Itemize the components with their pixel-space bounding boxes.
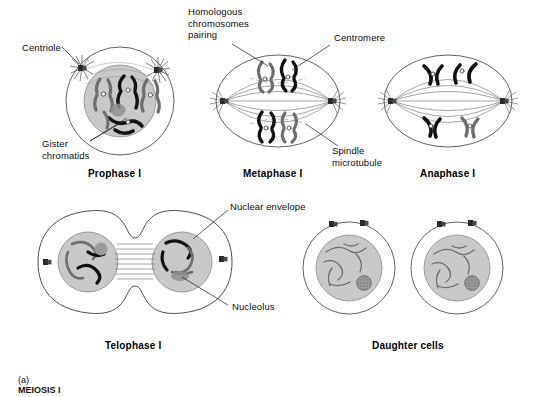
anaphase-cell [378, 55, 518, 147]
nucleolus [465, 276, 480, 291]
label-centromere: Centromere [334, 32, 385, 44]
stage-label-prophase-1: Prophase I [88, 168, 141, 179]
caption-prefix: (a) [18, 375, 29, 385]
label-nucleolus: Nucleolus [232, 301, 275, 313]
label-spindle-microtubule: Spindle microtubule [332, 145, 382, 168]
label-homologous-chromosomes-pairing: Homologous chromosomes pairing [188, 6, 249, 41]
telophase-cell [38, 210, 232, 314]
stage-label-anaphase-1: Anaphase I [420, 168, 475, 179]
nucleolus [357, 276, 372, 291]
label-sister-chromatids: Gister chromatids [42, 138, 89, 161]
label-nuclear-envelope: Nuclear envelope [230, 201, 306, 213]
metaphase-cell [210, 44, 346, 147]
daughter-cell [303, 220, 395, 314]
figure-caption: (a) MEIOSIS I [8, 365, 61, 397]
stage-label-daughter-cells: Daughter cells [372, 340, 444, 351]
stage-label-telophase-1: Telophase I [105, 340, 161, 351]
label-centriole: Centriole [22, 42, 61, 54]
centriole-icon [43, 259, 52, 265]
stage-label-metaphase-1: Metaphase I [243, 168, 302, 179]
daughter-cell [411, 220, 503, 314]
centriole-icon [219, 256, 228, 262]
caption-text: MEIOSIS I [18, 385, 61, 395]
